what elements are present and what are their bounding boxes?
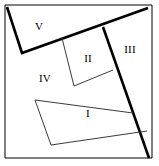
- region-label-v: V: [35, 21, 43, 32]
- region-label-i: I: [86, 108, 90, 119]
- figure-drawing: [0, 0, 159, 166]
- region-label-ii: II: [84, 53, 92, 64]
- region-label-iii: III: [124, 44, 136, 55]
- figure-canvas: V II III IV I: [0, 0, 159, 166]
- region-label-iv: IV: [39, 73, 51, 84]
